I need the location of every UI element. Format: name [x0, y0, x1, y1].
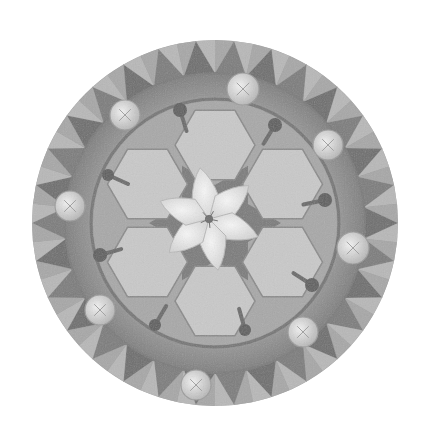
bead-head [239, 324, 251, 336]
bead-head [305, 278, 319, 292]
bead-head [149, 319, 161, 331]
mandala-artwork [0, 0, 427, 441]
bead-head [93, 248, 107, 262]
bead-head [173, 103, 187, 117]
mandala [32, 40, 398, 406]
bead-head [318, 193, 332, 207]
bead-head [268, 118, 282, 132]
bead-head [102, 169, 114, 181]
